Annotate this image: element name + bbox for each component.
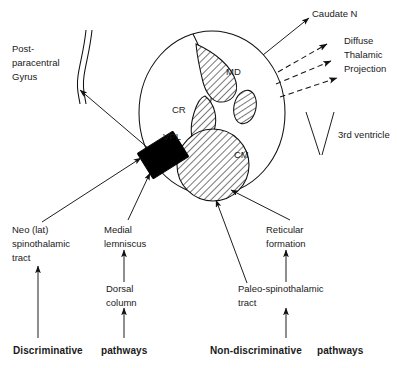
md-label: MD [226,66,241,77]
postparacentral-gyrus-shape [77,30,92,104]
nondiscriminative-pathways-label: pathways [317,345,364,356]
diffuse-label-line1: Diffuse [344,35,373,46]
cortex-label-line3: Gyrus [12,71,38,82]
cr-label: CR [172,104,186,115]
nondiscriminative-bold-label: Non-discriminative [210,345,302,356]
cm-label: CM [234,149,249,160]
medial-lemniscus-label-line2: lemniscus [104,238,146,249]
arrow-to-caudate [263,18,309,55]
reticular-formation-label-line2: formation [266,238,306,249]
diffuse-label-line3: Projection [344,63,386,74]
arrow-reticular-formation-to-cm [231,190,290,220]
cm-nucleus [177,129,249,201]
dashed-arrow-diffuse-1 [278,44,327,72]
dashed-arrow-diffuse-2 [276,61,331,84]
discriminative-bold-label: Discriminative [13,345,83,356]
dashed-arrow-diffuse-3 [280,78,337,97]
arrow-medial-lemniscus-to-vpl [128,173,150,220]
paleo-spinothalamic-label-line2: tract [238,297,257,308]
reticular-formation-label-line1: Reticular [266,224,304,235]
cortex-label-line1: Post- [12,43,34,54]
diffuse-label-line2: Thalamic [344,49,383,60]
dorsal-column-label-line2: column [106,297,137,308]
medial-lemniscus-label-line1: Medial [104,224,132,235]
paleo-spinothalamic-label-line1: Paleo-spinothalamic [238,283,324,294]
arrow-paleo-spinothalamic-to-cm [216,200,247,283]
discriminative-pathways-label: pathways [101,345,148,356]
arrow-vpl-to-cortex [80,90,148,148]
neo-spinothalamic-label-line3: tract [12,252,31,263]
vpl-label: VPL [163,131,181,142]
dorsal-column-label-line1: Dorsal [106,283,133,294]
arrow-neo-spinothalamic-to-vpl [42,158,141,222]
caudate-label: Caudate N [312,8,358,19]
third-ventricle-label: 3rd ventricle [338,129,390,140]
neo-spinothalamic-label-line1: Neo (lat) [12,224,48,235]
thalamus-diagram-svg: Post- paracentral Gyrus MD CR VPL CM Cau… [0,0,406,368]
third-ventricle-shape [306,112,334,155]
diagram-canvas: Post- paracentral Gyrus MD CR VPL CM Cau… [0,0,406,368]
cortex-label-line2: paracentral [12,57,60,68]
neo-spinothalamic-label-line2: spinothalamic [12,238,70,249]
